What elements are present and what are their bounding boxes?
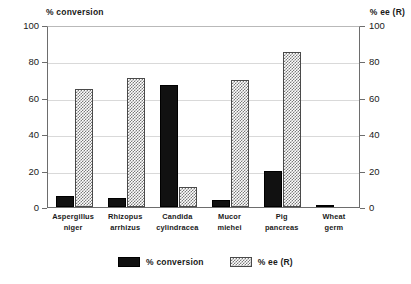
category-label-line: Aspergillus [47,212,99,223]
left-axis-tick [42,62,47,63]
category-label-line: Wheat [308,212,360,223]
left-axis-tick [42,172,47,173]
right-axis-tick-label: 0 [369,203,374,213]
chart-legend: % conversion % ee (R) [0,257,411,267]
plot-area [47,26,360,208]
left-axis-tick [42,26,47,27]
category-label-6: Wheatgerm [308,212,360,233]
right-axis-tick [360,172,365,173]
left-axis-tick-label: 20 [28,167,39,177]
right-axis-title: % ee (R) [370,7,405,17]
right-axis-tick-label: 60 [369,94,380,104]
legend-swatch-conversion [118,257,140,267]
bar-ee-2 [127,78,145,207]
left-axis-tick [42,99,47,100]
right-axis-tick [360,62,365,63]
left-axis-tick-label: 100 [23,21,39,31]
left-axis-tick-label: 40 [28,130,39,140]
right-axis-tick [360,135,365,136]
left-axis-title: % conversion [46,7,104,17]
bar-ee-1 [75,89,93,207]
bar-conversion-6 [316,205,334,207]
category-label-3: Candidacylindracea [151,212,203,233]
bar-conversion-1 [56,196,74,207]
bar-conversion-2 [108,198,126,207]
gridline [48,63,359,64]
category-label-line: Pig [256,212,308,223]
category-label-line: Candida [151,212,203,223]
left-axis-tick [42,208,47,209]
bar-conversion-5 [264,171,282,207]
legend-label-ee: % ee (R) [258,257,293,267]
right-axis-tick-label: 40 [369,130,380,140]
left-axis-tick-label: 80 [28,57,39,67]
right-axis-tick [360,99,365,100]
gridline [48,100,359,101]
category-label-4: Mucormiehei [204,212,256,233]
legend-swatch-ee [230,257,252,267]
legend-item-ee: % ee (R) [230,257,293,267]
gridline [48,136,359,137]
right-axis-tick-label: 20 [369,167,380,177]
bar-ee-4 [231,80,249,207]
category-label-line: arrhizus [99,223,151,234]
category-label-line: germ [308,223,360,234]
right-axis-tick-label: 100 [369,21,385,31]
chart-figure: % conversion % ee (R) 020406080100 02040… [0,0,411,284]
bar-ee-5 [283,52,301,207]
left-axis-tick-label: 0 [34,203,39,213]
right-axis-tick [360,26,365,27]
category-label-line: Mucor [204,212,256,223]
gridline [48,173,359,174]
category-label-line: Rhizopus [99,212,151,223]
bar-conversion-3 [160,85,178,207]
left-axis-tick [42,135,47,136]
legend-item-conversion: % conversion [118,257,204,267]
category-label-line: miehei [204,223,256,234]
category-label-5: Pigpancreas [256,212,308,233]
bar-conversion-4 [212,200,230,207]
category-label-1: Aspergillusniger [47,212,99,233]
left-axis-tick-label: 60 [28,94,39,104]
category-label-line: pancreas [256,223,308,234]
right-axis-tick-label: 80 [369,57,380,67]
legend-label-conversion: % conversion [146,257,204,267]
right-axis-tick [360,208,365,209]
category-label-2: Rhizopusarrhizus [99,212,151,233]
bar-ee-3 [179,187,197,207]
category-label-line: cylindracea [151,223,203,234]
category-label-line: niger [47,223,99,234]
